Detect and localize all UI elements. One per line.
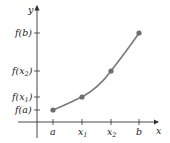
function-curve xyxy=(53,33,139,110)
point-x2 xyxy=(108,68,113,73)
function-graph: y x a x1 x2 b f(a) f(x1) f(x2) f(b) xyxy=(0,0,170,143)
point-a xyxy=(50,107,55,112)
x-tick-label-a: a xyxy=(50,126,56,137)
point-x1 xyxy=(79,94,84,99)
y-axis-label: y xyxy=(27,4,34,15)
x-tick-label-b: b xyxy=(136,126,142,137)
x-tick-label-x2: x2 xyxy=(107,126,117,139)
y-tick-label-fx1: f(x1) xyxy=(11,91,33,104)
y-tick-label-fa: f(a) xyxy=(14,104,32,115)
y-tick-label-fx2: f(x2) xyxy=(11,65,33,78)
x-axis-label: x xyxy=(156,125,162,136)
x-tick-label-x1: x1 xyxy=(78,126,88,139)
point-b xyxy=(136,30,141,35)
y-tick-label-fb: f(b) xyxy=(14,27,32,38)
